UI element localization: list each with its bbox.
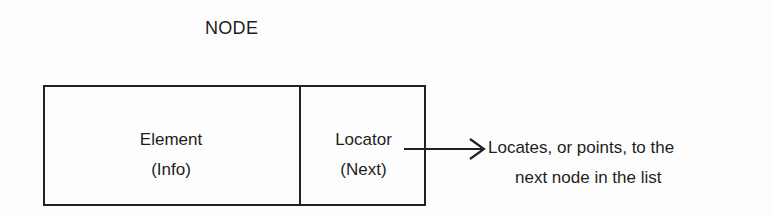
- diagram-title: NODE: [205, 18, 258, 39]
- element-sublabel: (Info): [43, 155, 299, 185]
- annotation-line-1: Locates, or points, to the: [488, 138, 674, 157]
- locator-annotation: Locates, or points, to the next node in …: [488, 133, 772, 193]
- element-label: Element: [43, 125, 299, 155]
- arrow-right-icon: [404, 138, 488, 160]
- annotation-line-2: next node in the list: [488, 163, 772, 193]
- element-field: Element (Info): [43, 125, 299, 185]
